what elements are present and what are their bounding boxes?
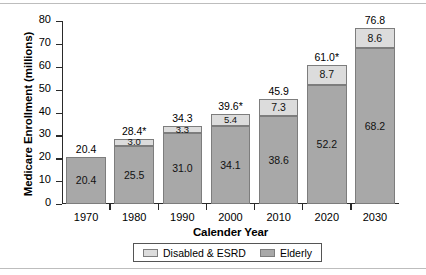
bar-total-label: 45.9: [268, 85, 288, 97]
x-axis-tick-label: 2010: [255, 211, 303, 223]
bar-segment-elderly: 34.1: [211, 126, 250, 204]
bar-segment-value: 31.0: [172, 163, 192, 174]
bar-group: 3.025.5: [114, 139, 153, 204]
y-axis-tick-label: 50: [39, 82, 51, 94]
bar-segment-elderly: 25.5: [114, 146, 153, 204]
bar-segment-disabled-esrd: 7.3: [259, 99, 298, 116]
bar-segment-value: 20.4: [76, 175, 96, 186]
bar-group: 7.338.6: [259, 99, 298, 204]
x-axis-tick-mark: [109, 204, 110, 210]
legend-label: Elderly: [280, 247, 312, 259]
bar-group: 5.434.1: [211, 114, 250, 204]
x-axis-tick-label: 1990: [158, 211, 206, 223]
bar-segment-elderly: 20.4: [66, 157, 105, 204]
bar-total-label: 39.6*: [218, 100, 243, 112]
bar-total-label: 34.3: [172, 112, 192, 124]
legend-entry: Elderly: [260, 247, 312, 259]
bar-segment-disabled-esrd: 8.6: [355, 28, 394, 48]
bar-segment-disabled-esrd: 3.0: [114, 139, 153, 146]
bar-segment-elderly: 38.6: [259, 116, 298, 204]
x-axis-tick-label: 2020: [303, 211, 351, 223]
y-axis-tick-label: 30: [39, 127, 51, 139]
y-axis-tick-mark: [56, 158, 62, 159]
x-axis-tick-mark: [206, 204, 207, 210]
y-axis-tick-label: 80: [39, 13, 51, 25]
bar-segment-value: 38.6: [268, 155, 288, 166]
x-axis-tick-mark: [254, 204, 255, 210]
y-axis-tick-mark: [56, 113, 62, 114]
legend-swatch-disabled: [143, 249, 158, 257]
x-axis-tick-label: 2030: [351, 211, 399, 223]
bar-group: 8.668.2: [355, 28, 394, 204]
x-axis-tick-mark: [302, 204, 303, 210]
bar-segment-value: 8.7: [319, 69, 334, 80]
bar-segment-value: 5.4: [224, 115, 237, 125]
bar-segment-value: 34.1: [220, 160, 240, 171]
legend-label: Disabled & ESRD: [163, 247, 246, 259]
bar-segment-elderly: 31.0: [163, 133, 202, 204]
chart-legend: Disabled & ESRDElderly: [133, 243, 322, 262]
bar-group: 8.752.2: [307, 65, 346, 204]
bar-total-label: 61.0*: [315, 51, 340, 63]
y-axis-tick-label: 0: [45, 196, 51, 208]
x-axis-tick-label: 1970: [62, 211, 110, 223]
figure-top-rule: [0, 3, 426, 4]
bar-segment-value: 52.2: [317, 139, 337, 150]
y-axis-tick-mark: [56, 67, 62, 68]
bar-segment-elderly: 52.2: [307, 85, 346, 204]
y-axis-tick-mark: [56, 21, 62, 22]
bar-group: 3.331.0: [163, 126, 202, 204]
bar-segment-value: 8.6: [368, 33, 383, 44]
x-axis-tick-mark: [350, 204, 351, 210]
bar-total-label: 20.4: [76, 143, 96, 155]
bar-segment-disabled-esrd: 3.3: [163, 126, 202, 134]
bar-segment-value: 68.2: [365, 121, 385, 132]
bar-total-label: 28.4*: [122, 125, 147, 137]
y-axis-tick-label: 40: [39, 105, 51, 117]
x-axis-tick-label: 1980: [110, 211, 158, 223]
legend-entry: Disabled & ESRD: [143, 247, 246, 259]
x-axis-tick-label: 2000: [206, 211, 254, 223]
y-axis-tick-mark: [56, 44, 62, 45]
y-axis-tick-label: 70: [39, 36, 51, 48]
legend-swatch-elderly: [260, 249, 275, 257]
bar-group: 20.4: [66, 157, 105, 204]
x-axis-title: Calender Year: [62, 226, 399, 238]
y-axis-tick-mark: [56, 90, 62, 91]
y-axis-tick-mark: [56, 181, 62, 182]
chart-figure: Medicare Enrollment (millions) 010203040…: [0, 0, 426, 275]
y-axis-tick-label: 60: [39, 59, 51, 71]
y-axis-tick-mark: [56, 135, 62, 136]
bar-segment-disabled-esrd: 8.7: [307, 65, 346, 85]
y-axis-tick-mark: [56, 204, 62, 205]
bar-segment-disabled-esrd: 5.4: [211, 114, 250, 126]
bar-segment-value: 25.5: [124, 170, 144, 181]
figure-bottom-rule: [0, 268, 426, 269]
y-axis-tick-label: 10: [39, 173, 51, 185]
y-axis-tick-label: 20: [39, 150, 51, 162]
x-axis-tick-mark: [158, 204, 159, 210]
y-axis-title: Medicare Enrollment (millions): [22, 14, 34, 214]
bar-segment-elderly: 68.2: [355, 48, 394, 204]
bar-total-label: 76.8: [365, 14, 385, 26]
bar-segment-value: 7.3: [271, 102, 286, 113]
